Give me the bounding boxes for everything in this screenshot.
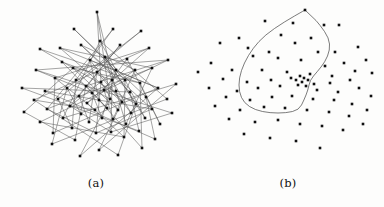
graph-node (51, 143, 54, 146)
graph-node (277, 57, 280, 60)
graph-node (249, 99, 252, 102)
graph-node (365, 59, 368, 62)
graph-node (96, 11, 99, 14)
graph-node (151, 67, 154, 70)
graph-node (46, 108, 49, 111)
graph-node (316, 89, 319, 92)
graph-node (331, 75, 334, 78)
graph-node (370, 95, 373, 98)
graph-node (141, 147, 144, 150)
graph-node (91, 92, 94, 95)
graph-edge (81, 45, 130, 92)
graph-node (71, 127, 74, 130)
graph-edge (36, 60, 168, 70)
graph-node (104, 56, 107, 59)
graph-node (323, 24, 326, 27)
graph-node (99, 40, 102, 43)
graph-edge (55, 48, 149, 78)
graph-node (103, 89, 106, 92)
graph-node (157, 87, 160, 90)
graph-node (343, 62, 346, 65)
graph-node (348, 115, 351, 118)
graph-node (167, 59, 170, 62)
graph-node (349, 79, 352, 82)
graph-node (110, 131, 113, 134)
graph-node (286, 71, 289, 74)
graph-node (214, 105, 217, 108)
graph-node (351, 103, 354, 106)
graph-node (80, 113, 83, 116)
graph-node (294, 42, 297, 45)
graph-node (171, 112, 174, 115)
graph-node (144, 117, 147, 120)
graph-node (119, 44, 122, 47)
boundary-curve-layer (239, 10, 330, 113)
graph-node (317, 51, 320, 54)
graph-node (96, 71, 99, 74)
graph-node (295, 79, 298, 82)
graph-node (307, 79, 310, 82)
panel-b-caption: (b) (192, 176, 384, 190)
graph-node (134, 69, 137, 72)
graph-node (357, 46, 360, 49)
graph-node (61, 61, 64, 64)
graph-node (261, 69, 264, 72)
graph-node (271, 96, 274, 99)
graph-node (247, 47, 250, 50)
graph-node (310, 37, 313, 40)
graph-node (334, 51, 337, 54)
graph-node (117, 154, 120, 157)
graph-node (86, 102, 89, 105)
graph-node (35, 69, 38, 72)
figure-root: (a) (b) (0, 0, 384, 207)
graph-node (328, 111, 331, 114)
graph-node (280, 34, 283, 37)
graph-node (257, 87, 260, 90)
graph-node (197, 71, 200, 74)
graph-node (263, 106, 266, 109)
graph-hairball-plot (0, 0, 192, 182)
graph-node (117, 109, 120, 112)
graph-node (52, 132, 55, 135)
graph-node (21, 87, 24, 90)
graph-node (74, 139, 77, 142)
graph-node (139, 82, 142, 85)
graph-node (73, 28, 76, 31)
graph-node (239, 109, 242, 112)
graph-node (362, 123, 365, 126)
graph-node (66, 87, 69, 90)
graph-node (338, 24, 341, 27)
graph-node (145, 96, 148, 99)
graph-node (54, 77, 57, 80)
graph-node (94, 109, 97, 112)
graph-node (243, 133, 246, 136)
graph-node (115, 90, 118, 93)
graph-node (222, 78, 225, 81)
graph-node (154, 138, 157, 141)
graph-node (312, 98, 315, 101)
graph-node (138, 130, 141, 133)
graph-node (159, 123, 162, 126)
graph-node (89, 59, 92, 62)
graph-node (269, 137, 272, 140)
graph-node (135, 103, 138, 106)
graph-node (88, 121, 91, 124)
graph-node (337, 91, 340, 94)
graph-node (319, 147, 322, 150)
panel-b: (b) (192, 0, 384, 207)
graph-node (333, 99, 336, 102)
graph-node (59, 47, 62, 50)
graph-node (124, 79, 127, 82)
graph-node (75, 79, 78, 82)
graph-node (62, 117, 65, 120)
graph-node (23, 111, 26, 114)
graph-node (166, 98, 169, 101)
graph-node (301, 81, 304, 84)
edge-layer (22, 12, 176, 156)
graph-node (297, 84, 300, 87)
graph-node (112, 118, 115, 121)
graph-node (371, 72, 374, 75)
graph-node (225, 96, 228, 99)
graph-node (303, 77, 306, 80)
graph-node (284, 107, 287, 110)
